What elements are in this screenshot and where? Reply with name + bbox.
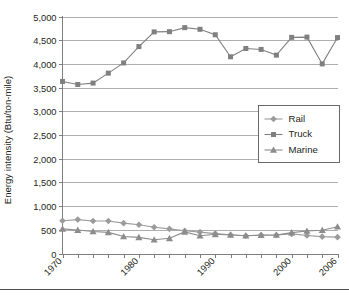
- data-point-rail: [151, 224, 158, 231]
- x-axis-tick-label: 1970: [42, 256, 64, 278]
- y-axis-title: Energy intensity (Btu/ton-mile): [2, 76, 13, 205]
- legend-marker-truck: [271, 132, 276, 137]
- series-truck: [60, 25, 340, 87]
- data-point-truck: [198, 27, 203, 32]
- data-point-truck: [274, 53, 279, 58]
- data-point-rail: [136, 222, 143, 229]
- y-axis-tick-label: 3,500: [33, 84, 56, 94]
- data-point-truck: [121, 60, 126, 65]
- x-axis-tick-labels-group: 19701980199020002006: [42, 256, 339, 278]
- data-point-rail: [166, 226, 173, 233]
- data-point-truck: [243, 46, 248, 51]
- y-axis-tick-label: 1,000: [33, 202, 56, 212]
- data-point-truck: [304, 35, 309, 40]
- data-point-truck: [213, 32, 218, 37]
- y-axis-tick-labels-group: 05001,0001,5002,0002,5003,0003,5004,0004…: [33, 13, 56, 260]
- x-axis-tick-label: 1990: [195, 256, 217, 278]
- data-point-truck: [91, 81, 96, 86]
- data-point-rail: [120, 220, 127, 227]
- data-point-truck: [320, 61, 325, 66]
- chart-figure: 05001,0001,5002,0002,5003,0003,5004,0004…: [0, 0, 349, 297]
- x-axis-tick-label: 1980: [119, 256, 141, 278]
- data-point-truck: [75, 82, 80, 87]
- data-point-truck: [136, 44, 141, 49]
- data-point-rail: [334, 234, 341, 241]
- data-point-marine: [334, 223, 341, 229]
- y-axis-tick-label: 1,500: [33, 178, 56, 188]
- data-point-truck: [259, 47, 264, 52]
- data-point-truck: [289, 35, 294, 40]
- data-point-marine: [166, 235, 173, 241]
- y-axis-tick-label: 2,000: [33, 155, 56, 165]
- data-point-truck: [106, 71, 111, 76]
- data-point-rail: [90, 218, 97, 225]
- data-point-truck: [60, 79, 65, 84]
- data-point-rail: [319, 233, 326, 240]
- data-point-truck: [335, 35, 340, 40]
- line-chart: 05001,0001,5002,0002,5003,0003,5004,0004…: [0, 0, 349, 297]
- y-axis-tick-label: 3,000: [33, 107, 56, 117]
- y-axis-tick-label: 500: [41, 226, 57, 236]
- y-axis-tick-label: 4,000: [33, 60, 56, 70]
- data-point-truck: [182, 25, 187, 30]
- series-line-truck: [63, 28, 338, 85]
- series-marine: [59, 223, 341, 242]
- data-point-truck: [228, 54, 233, 59]
- x-axis-tick-label: 2006: [317, 256, 339, 278]
- data-point-rail: [59, 217, 66, 224]
- data-point-truck: [152, 29, 157, 34]
- data-point-truck: [167, 29, 172, 34]
- y-axis-tick-label: 4,500: [33, 36, 56, 46]
- chart-legend: RailTruckMarine: [259, 106, 340, 163]
- legend-label-rail: Rail: [289, 113, 306, 124]
- y-axis-tick-label: 2,500: [33, 131, 56, 141]
- y-axis-tick-label: 5,000: [33, 13, 56, 23]
- data-point-rail: [74, 216, 81, 223]
- legend-label-truck: Truck: [289, 128, 313, 139]
- data-point-marine: [181, 228, 188, 234]
- legend-label-marine: Marine: [289, 144, 318, 155]
- x-axis-tick-label: 2000: [271, 256, 293, 278]
- data-point-rail: [105, 218, 112, 225]
